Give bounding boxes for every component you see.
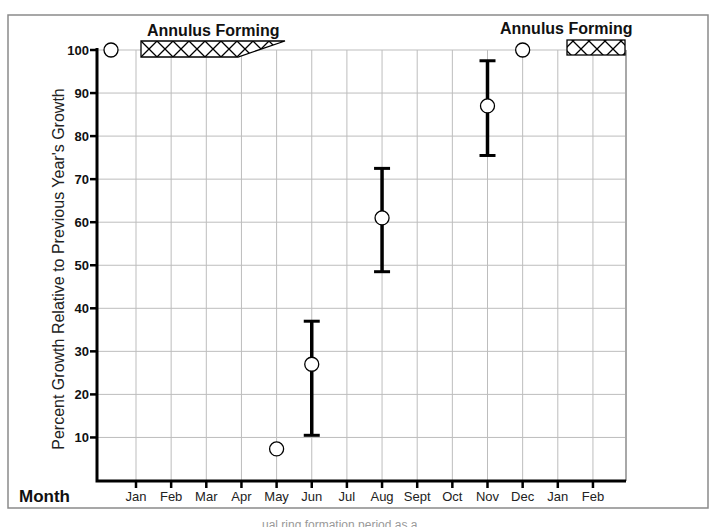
data-point [104,43,118,57]
x-tick-label: Feb [582,489,604,504]
data-point [270,442,284,456]
x-tick-label: Nov [476,489,500,504]
y-axis-ticks: 102030405060708090100 [67,43,97,445]
x-tick-label: Apr [231,489,252,504]
data-point [375,211,389,225]
y-tick-label: 100 [67,43,89,58]
annulus-band-right [567,40,625,55]
data-point [481,99,495,113]
x-tick-label: Jun [301,489,322,504]
data-point [516,43,530,57]
growth-chart: Annulus Forming Annulus Forming 10203040… [0,0,717,527]
x-tick-label: Jan [547,489,568,504]
y-axis-title: Percent Growth Relative to Previous Year… [50,88,67,449]
annulus-band-left [141,41,285,57]
annulus-label-right: Annulus Forming [500,20,632,37]
y-tick-label: 30 [75,344,89,359]
y-tick-label: 80 [75,129,89,144]
x-tick-label: May [264,489,289,504]
data-point [305,357,319,371]
horizontal-gridlines [97,50,626,437]
y-tick-label: 90 [75,86,89,101]
y-tick-label: 50 [75,258,89,273]
annulus-label-left: Annulus Forming [147,22,279,39]
y-tick-label: 40 [75,301,89,316]
y-tick-label: 10 [75,430,89,445]
axes [97,48,626,481]
y-tick-label: 60 [75,215,89,230]
y-tick-label: 70 [75,172,89,187]
x-tick-label: Feb [160,489,182,504]
x-tick-label: Oct [442,489,463,504]
x-tick-label: Dec [511,489,535,504]
x-tick-label: Jan [126,489,147,504]
x-axis-ticks: JanFebMarAprMayJunJulAugSeptOctNovDecJan… [126,481,605,504]
x-tick-label: Mar [195,489,218,504]
x-axis-title: Month [19,487,70,506]
y-tick-label: 20 [75,387,89,402]
figure-caption-partial: …ual ring formation period as a [250,512,710,527]
x-tick-label: Jul [339,489,356,504]
x-tick-label: Aug [370,489,393,504]
x-tick-label: Sept [404,489,431,504]
figure-frame [8,15,708,508]
